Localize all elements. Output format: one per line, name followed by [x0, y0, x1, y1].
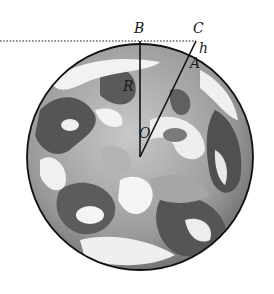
- label-C: C: [193, 21, 204, 35]
- label-R: R: [123, 79, 134, 93]
- label-O: O: [139, 126, 150, 140]
- label-h: h: [199, 41, 208, 55]
- label-A: A: [190, 56, 200, 70]
- earth-geometry-diagram: [0, 0, 274, 294]
- label-B: B: [134, 21, 144, 35]
